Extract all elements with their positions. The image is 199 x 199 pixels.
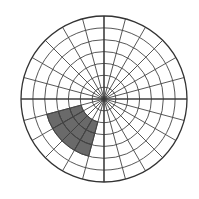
polar-chart-figure [0, 0, 199, 199]
polar-grid-svg [0, 0, 199, 199]
